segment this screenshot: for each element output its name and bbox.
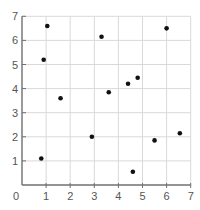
data-point [99, 34, 104, 39]
data-point [58, 96, 63, 101]
x-tick-label: 6 [164, 190, 170, 202]
x-tick-label: 5 [139, 190, 145, 202]
x-tick-label: 3 [91, 190, 97, 202]
data-point [131, 169, 136, 174]
data-point [45, 24, 50, 29]
y-tick-label: 1 [12, 155, 18, 167]
axes [22, 16, 191, 188]
x-tick-label: 1 [43, 190, 49, 202]
x-tick-label: 0 [13, 190, 19, 202]
data-point [39, 156, 44, 161]
y-tick-label: 6 [12, 34, 18, 46]
data-points [39, 24, 182, 174]
scatter-chart: 01234567 1234567 [0, 0, 200, 210]
data-point [41, 57, 46, 62]
y-axis-tick-labels: 1234567 [12, 10, 18, 167]
data-point [106, 90, 111, 95]
data-point [164, 26, 169, 31]
data-point [135, 75, 140, 80]
data-point [152, 138, 157, 143]
y-tick-label: 2 [12, 131, 18, 143]
data-point [126, 81, 131, 86]
data-point [90, 135, 95, 140]
y-tick-label: 7 [12, 10, 18, 22]
data-point [178, 131, 183, 136]
y-tick-label: 4 [12, 83, 18, 95]
grid-lines [22, 16, 191, 185]
x-axis-tick-labels: 01234567 [13, 190, 194, 202]
x-tick-label: 7 [188, 190, 194, 202]
y-tick-label: 5 [12, 59, 18, 71]
x-tick-label: 4 [115, 190, 121, 202]
x-tick-label: 2 [67, 190, 73, 202]
y-tick-label: 3 [12, 107, 18, 119]
